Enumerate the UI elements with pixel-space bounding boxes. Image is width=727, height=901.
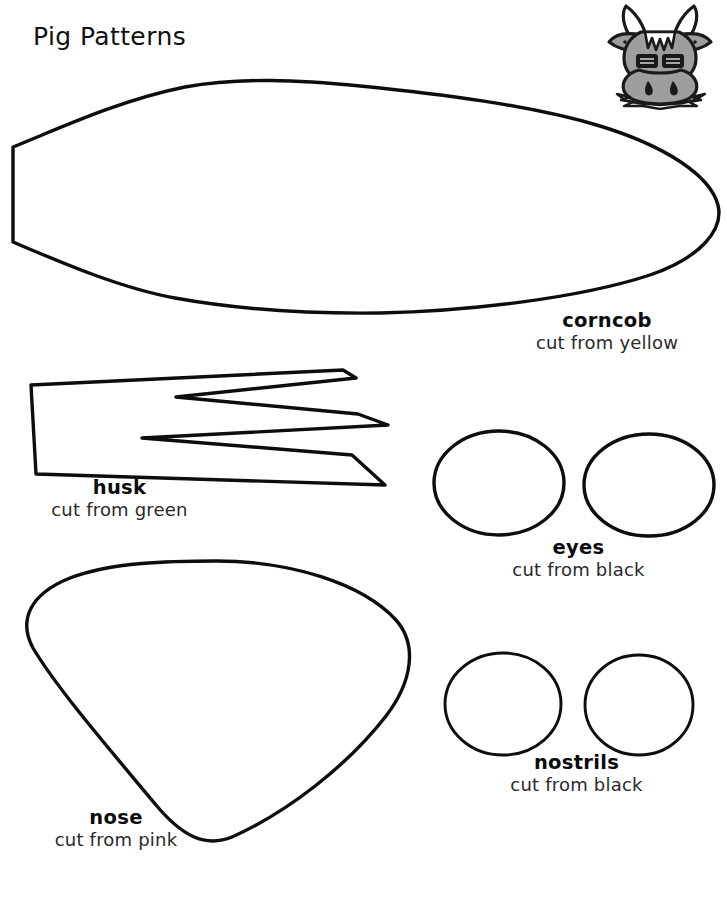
label-nostrils: nostrils cut from black bbox=[478, 753, 675, 798]
eye-circle-shape-left[interactable] bbox=[434, 431, 564, 535]
label-corncob: corncob cut from yellow bbox=[492, 311, 722, 356]
pattern-sheet-page: Pig Patterns bbox=[0, 0, 727, 901]
label-nose-name: nose bbox=[18, 808, 214, 828]
label-nose-instruction: cut from pink bbox=[18, 828, 214, 852]
label-husk: husk cut from green bbox=[21, 478, 218, 523]
nostril-circle-shape-left[interactable] bbox=[445, 653, 561, 755]
label-husk-name: husk bbox=[21, 478, 218, 498]
label-eyes: eyes cut from black bbox=[480, 538, 677, 583]
label-corncob-instruction: cut from yellow bbox=[492, 331, 722, 355]
label-corncob-name: corncob bbox=[492, 311, 722, 331]
husk-outline-shape[interactable] bbox=[31, 370, 388, 485]
nostril-circle-shape-right[interactable] bbox=[585, 655, 693, 755]
corncob-outline-shape[interactable] bbox=[13, 80, 719, 313]
label-husk-instruction: cut from green bbox=[21, 498, 218, 522]
label-nostrils-instruction: cut from black bbox=[478, 773, 675, 797]
eye-circle-shape-right[interactable] bbox=[584, 434, 714, 536]
label-eyes-name: eyes bbox=[480, 538, 677, 558]
nose-outline-shape[interactable] bbox=[27, 561, 410, 841]
label-nose: nose cut from pink bbox=[18, 808, 214, 853]
label-nostrils-name: nostrils bbox=[478, 753, 675, 773]
label-eyes-instruction: cut from black bbox=[480, 558, 677, 582]
